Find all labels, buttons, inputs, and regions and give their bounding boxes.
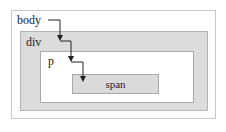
diagram-canvas: body div p span [0, 0, 226, 132]
arrow-p-to-span [71, 62, 86, 82]
propagation-arrows [0, 0, 226, 132]
arrow-body-to-div [48, 20, 63, 41]
arrow-div-to-p [60, 41, 74, 62]
